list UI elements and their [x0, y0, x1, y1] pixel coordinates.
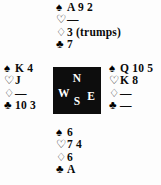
heart-icon: ♡ [56, 13, 67, 25]
east-club-row: ♣ — [109, 99, 153, 111]
east-diamond-ranks: — [120, 87, 132, 99]
north-diamond-ranks: 3 (trumps) [67, 26, 121, 38]
west-heart-row: ♡ J [4, 74, 36, 86]
east-spade-ranks: Q 10 5 [120, 62, 153, 74]
bridge-hand-diagram: ♠ A 9 2 ♡ — ♢ 3 (trumps) ♣ 7 ♠ K 4 ♡ J ♢… [0, 0, 161, 185]
diamond-icon: ♢ [109, 87, 120, 99]
hand-south: ♠ 6 ♡ 7 4 ♢ 6 ♣ A [56, 126, 82, 176]
south-heart-row: ♡ 7 4 [56, 138, 82, 150]
west-diamond-ranks: — [15, 87, 27, 99]
north-spade-row: ♠ A 9 2 [56, 1, 121, 13]
west-club-row: ♣ 10 3 [4, 99, 36, 111]
west-club-ranks: 10 3 [15, 99, 36, 111]
compass-box: N W E S [53, 67, 101, 114]
heart-icon: ♡ [109, 74, 120, 86]
diamond-icon: ♢ [4, 87, 15, 99]
west-spade-row: ♠ K 4 [4, 62, 36, 74]
south-club-row: ♣ A [56, 163, 82, 175]
south-club-ranks: A [67, 163, 76, 175]
east-diamond-row: ♢ — [109, 87, 153, 99]
spade-icon: ♠ [56, 1, 67, 13]
south-heart-ranks: 7 4 [67, 138, 82, 150]
south-diamond-ranks: 6 [67, 151, 73, 163]
hand-east: ♠ Q 10 5 ♡ K 8 ♢ — ♣ — [109, 62, 153, 112]
west-heart-ranks: J [15, 74, 21, 86]
compass-south-label: S [53, 96, 101, 108]
north-club-ranks: 7 [67, 38, 73, 50]
diamond-icon: ♢ [56, 26, 67, 38]
compass-north-label: N [53, 73, 101, 85]
north-club-row: ♣ 7 [56, 38, 121, 50]
east-club-ranks: — [120, 99, 132, 111]
hand-north: ♠ A 9 2 ♡ — ♢ 3 (trumps) ♣ 7 [56, 1, 121, 51]
spade-icon: ♠ [109, 62, 120, 74]
heart-icon: ♡ [4, 74, 15, 86]
south-spade-ranks: 6 [67, 126, 73, 138]
east-heart-ranks: K 8 [120, 74, 138, 86]
east-spade-row: ♠ Q 10 5 [109, 62, 153, 74]
club-icon: ♣ [56, 38, 67, 50]
west-spade-ranks: K 4 [15, 62, 33, 74]
spade-icon: ♠ [4, 62, 15, 74]
club-icon: ♣ [4, 99, 15, 111]
club-icon: ♣ [56, 163, 67, 175]
club-icon: ♣ [109, 99, 120, 111]
north-spade-ranks: A 9 2 [67, 1, 93, 13]
diamond-icon: ♢ [56, 151, 67, 163]
south-spade-row: ♠ 6 [56, 126, 82, 138]
heart-icon: ♡ [56, 138, 67, 150]
west-diamond-row: ♢ — [4, 87, 36, 99]
spade-icon: ♠ [56, 126, 67, 138]
east-heart-row: ♡ K 8 [109, 74, 153, 86]
north-heart-ranks: — [67, 13, 79, 25]
hand-west: ♠ K 4 ♡ J ♢ — ♣ 10 3 [4, 62, 36, 112]
north-heart-row: ♡ — [56, 13, 121, 25]
north-diamond-row: ♢ 3 (trumps) [56, 26, 121, 38]
south-diamond-row: ♢ 6 [56, 151, 82, 163]
